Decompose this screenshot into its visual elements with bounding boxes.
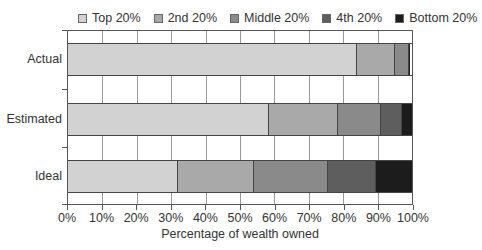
bar-estimated <box>68 103 412 136</box>
x-tick <box>67 205 68 210</box>
x-tick <box>240 205 241 210</box>
x-tick-label: 20% <box>124 211 149 225</box>
x-tick <box>102 205 103 210</box>
x-tick <box>413 205 414 210</box>
bar-segment-estimated-1 <box>269 104 338 135</box>
legend-swatch-4th <box>322 14 331 23</box>
x-tick-label: 10% <box>89 211 114 225</box>
legend-swatch-2nd <box>154 14 163 23</box>
legend: Top 20% 2nd 20% Middle 20% 4th 20% Botto… <box>78 10 482 26</box>
bar-segment-estimated-2 <box>338 104 381 135</box>
x-tick <box>378 205 379 210</box>
y-tick <box>62 30 67 31</box>
x-tick-label: 30% <box>158 211 183 225</box>
x-tick-label: 0% <box>58 211 76 225</box>
legend-swatch-middle <box>230 14 239 23</box>
bar-segment-estimated-0 <box>68 104 269 135</box>
legend-item-2nd: 2nd 20% <box>154 11 217 25</box>
legend-item-bottom: Bottom 20% <box>395 11 477 25</box>
x-axis-title: Percentage of wealth owned <box>67 227 413 241</box>
x-tick <box>275 205 276 210</box>
legend-label-bottom: Bottom 20% <box>409 11 477 25</box>
x-tick-label: 80% <box>331 211 356 225</box>
y-label-actual: Actual <box>27 52 62 66</box>
legend-item-4th: 4th 20% <box>322 11 382 25</box>
x-tick-label: 40% <box>193 211 218 225</box>
bar-segment-ideal-4 <box>376 161 412 192</box>
legend-label-middle: Middle 20% <box>244 11 309 25</box>
bar-segment-actual-0 <box>68 44 357 75</box>
y-label-estimated: Estimated <box>6 112 62 126</box>
x-tick-label: 50% <box>227 211 252 225</box>
legend-item-top: Top 20% <box>78 11 141 25</box>
x-tick <box>309 205 310 210</box>
x-tick <box>171 205 172 210</box>
legend-label-top: Top 20% <box>92 11 141 25</box>
y-label-ideal: Ideal <box>35 169 62 183</box>
x-tick-label: 100% <box>397 211 429 225</box>
legend-label-4th: 4th 20% <box>336 11 382 25</box>
bar-segment-actual-2 <box>395 44 409 75</box>
x-tick-label: 90% <box>366 211 391 225</box>
bar-actual <box>68 43 412 76</box>
bar-segment-ideal-2 <box>254 161 328 192</box>
legend-swatch-bottom <box>395 14 404 23</box>
x-tick <box>205 205 206 210</box>
legend-item-middle: Middle 20% <box>230 11 309 25</box>
bar-segment-estimated-3 <box>381 104 402 135</box>
bar-ideal <box>68 160 412 193</box>
bar-segment-ideal-0 <box>68 161 178 192</box>
bar-segment-estimated-4 <box>402 104 412 135</box>
legend-label-2nd: 2nd 20% <box>168 11 217 25</box>
plot-area <box>67 30 413 205</box>
y-tick <box>62 147 67 148</box>
x-tick <box>344 205 345 210</box>
x-tick-label: 70% <box>297 211 322 225</box>
y-tick <box>62 89 67 90</box>
bar-segment-ideal-1 <box>178 161 254 192</box>
bar-segment-actual-1 <box>357 44 395 75</box>
legend-swatch-top <box>78 14 87 23</box>
bar-segment-ideal-3 <box>328 161 376 192</box>
x-tick <box>136 205 137 210</box>
x-tick-label: 60% <box>262 211 287 225</box>
